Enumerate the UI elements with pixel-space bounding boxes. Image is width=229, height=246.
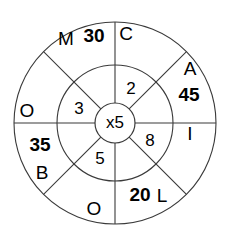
outer-number-45: 45 <box>178 84 200 105</box>
outer-number-20: 20 <box>129 184 150 205</box>
outer-number-35: 35 <box>29 134 51 155</box>
inner-number-8: 8 <box>145 131 154 150</box>
wheel-canvas: x5 2 8 5 3 M 30 C A 45 I 20 L O 35 B O <box>0 0 229 246</box>
inner-number-3: 3 <box>74 99 83 118</box>
outer-number-30: 30 <box>83 25 104 46</box>
outer-letter-M: M <box>58 28 74 49</box>
inner-number-2: 2 <box>126 79 135 98</box>
inner-number-5: 5 <box>95 149 104 168</box>
outer-letter-I: I <box>187 123 192 144</box>
multiplication-wheel-diagram: x5 2 8 5 3 M 30 C A 45 I 20 L O 35 B O <box>0 0 229 246</box>
outer-letter-A: A <box>184 58 197 79</box>
center-operation-label: x5 <box>106 113 124 132</box>
outer-letter-C: C <box>119 23 133 44</box>
outer-letter-L: L <box>157 185 168 206</box>
outer-letter-O-bottom: O <box>87 198 102 219</box>
spoke-lower-left <box>44 137 101 194</box>
outer-letter-O-left: O <box>20 100 35 121</box>
outer-letter-B: B <box>36 162 49 183</box>
spoke-upper-left <box>44 52 101 109</box>
